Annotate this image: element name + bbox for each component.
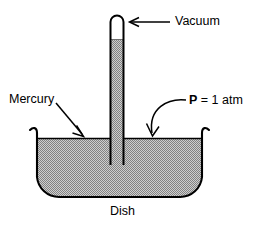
- barometer-drawing: [0, 0, 266, 228]
- label-pressure: P = 1 atm: [189, 94, 243, 107]
- label-mercury: Mercury: [9, 93, 54, 106]
- pressure-value: = 1 atm: [201, 93, 243, 107]
- pressure-arrow: [147, 100, 187, 136]
- vacuum-space: [111, 16, 122, 39]
- mercury-arrow: [56, 103, 84, 137]
- barometer-figure: Vacuum Mercury Dish P = 1 atm: [0, 0, 266, 228]
- mercury-pool: [36, 138, 203, 198]
- mercury-column: [110, 39, 124, 141]
- label-dish: Dish: [110, 205, 135, 218]
- vacuum-arrow: [130, 18, 171, 27]
- label-vacuum: Vacuum: [175, 15, 220, 28]
